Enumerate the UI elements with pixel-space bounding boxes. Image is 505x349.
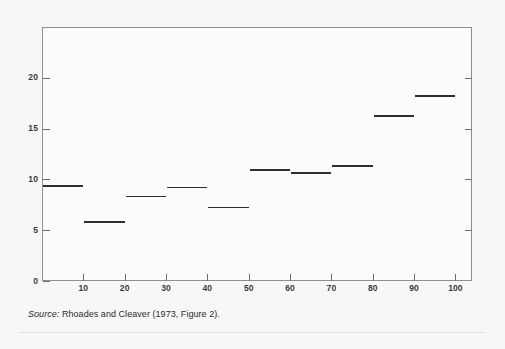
x-axis-label-90: 90 [399,283,429,293]
x-axis-label-100: 100 [440,283,470,293]
data-segment-80-90 [374,115,414,117]
y-tick-5 [43,230,50,231]
y-axis-label-0: 0 [12,276,38,286]
x-axis-label-40: 40 [192,283,222,293]
y-tick-right-20 [465,78,472,79]
y-axis-labels: 05101520 [8,0,38,300]
x-tick-50 [249,274,250,281]
x-axis-label-60: 60 [275,283,305,293]
plot-frame [42,27,472,281]
y-tick-right-5 [465,230,472,231]
x-tick-100 [455,274,456,281]
data-segment-70-80 [332,165,372,167]
y-axis-label-20: 20 [12,72,38,82]
data-segment-60-70 [291,172,331,174]
data-segment-0-10 [43,185,83,187]
y-tick-20 [43,78,50,79]
x-tick-70 [331,274,332,281]
source-note-label: Source: [28,309,59,319]
data-segment-50-60 [250,169,290,171]
x-tick-90 [414,274,415,281]
x-axis-label-30: 30 [151,283,181,293]
x-axis-label-70: 70 [316,283,346,293]
y-axis-label-5: 5 [12,225,38,235]
panel-bottom-divider [18,332,486,333]
x-tick-80 [373,274,374,281]
x-tick-60 [290,274,291,281]
x-axis-label-20: 20 [110,283,140,293]
x-axis-label-50: 50 [234,283,264,293]
data-segment-20-30 [126,196,166,198]
x-axis-label-10: 10 [68,283,98,293]
x-tick-10 [83,274,84,281]
x-axis-label-80: 80 [358,283,388,293]
data-segment-30-40 [167,187,207,189]
y-axis-label-15: 15 [12,123,38,133]
x-tick-40 [207,274,208,281]
y-tick-15 [43,129,50,130]
x-tick-30 [166,274,167,281]
y-axis-label-10: 10 [12,174,38,184]
y-tick-10 [43,179,50,180]
source-note-text: Rhoades and Cleaver (1973, Figure 2). [59,309,220,319]
y-tick-0 [43,281,50,282]
figure-panel: 05101520 102030405060708090100 Source: R… [0,0,505,349]
data-segment-90-100 [415,95,455,97]
chart-area: 05101520 102030405060708090100 [0,0,505,300]
y-tick-right-15 [465,129,472,130]
source-note: Source: Rhoades and Cleaver (1973, Figur… [28,309,220,319]
data-segment-40-50 [208,207,248,209]
x-tick-20 [125,274,126,281]
data-segment-10-20 [84,221,124,223]
y-tick-right-10 [465,179,472,180]
